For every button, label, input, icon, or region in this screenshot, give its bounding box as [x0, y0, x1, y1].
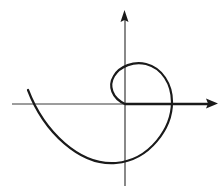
- spiral-diagram: [0, 0, 219, 187]
- spiral-curve: [28, 63, 172, 163]
- x-axis: [12, 99, 218, 109]
- y-axis: [121, 10, 129, 186]
